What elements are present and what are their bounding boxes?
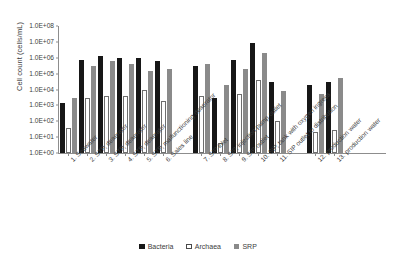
y-axis-title: Cell count (cells/mL)	[15, 2, 24, 112]
bar-bacteria	[231, 60, 236, 153]
x-tick-mark	[106, 153, 107, 156]
x-tick-mark	[87, 153, 88, 156]
legend-item-bacteria[interactable]: Bacteria	[139, 243, 173, 250]
y-tick-label: 1.0E+05	[29, 70, 54, 77]
x-tick-mark	[144, 153, 145, 156]
legend-label: Archaea	[195, 243, 221, 250]
y-tick-label: 1.0E+00	[29, 150, 54, 157]
bar-group	[212, 26, 230, 153]
chart-legend: BacteriaArchaeaSRP	[0, 243, 396, 250]
bar-bacteria	[60, 103, 65, 153]
legend-item-archaea[interactable]: Archaea	[186, 243, 221, 250]
bar-bacteria	[79, 60, 84, 153]
legend-swatch-srp	[234, 244, 240, 250]
bar-bacteria	[136, 58, 141, 153]
y-tick-label: 1.0E+07	[29, 39, 54, 46]
legend-item-srp[interactable]: SRP	[234, 243, 257, 250]
legend-swatch-archaea	[186, 244, 192, 250]
x-tick-mark	[201, 153, 202, 156]
bar-bacteria	[155, 61, 160, 153]
x-tick-mark	[334, 153, 335, 156]
legend-swatch-bacteria	[139, 244, 145, 250]
plot-area: 1.0E+081.0E+071.0E+061.0E+051.0E+041.0E+…	[58, 26, 385, 153]
bar-srp	[205, 64, 210, 153]
x-tick-mark	[220, 153, 221, 156]
bar-bacteria	[117, 58, 122, 153]
y-tick-label: 1.0E+04	[29, 86, 54, 93]
bar-group	[193, 26, 211, 153]
bar-archaea	[66, 128, 71, 153]
x-tick-mark	[315, 153, 316, 156]
legend-label: SRP	[242, 243, 256, 250]
bar-group	[60, 26, 78, 153]
x-tick-mark	[239, 153, 240, 156]
legend-label: Bacteria	[148, 243, 174, 250]
y-tick-label: 1.0E+08	[29, 23, 54, 30]
y-tick-label: 1.0E+01	[29, 134, 54, 141]
bar-srp	[72, 98, 77, 153]
y-tick-label: 1.0E+02	[29, 118, 54, 125]
bar-archaea	[313, 132, 318, 153]
bar-groups	[58, 26, 385, 153]
y-tick-label: 1.0E+06	[29, 54, 54, 61]
x-tick-mark	[125, 153, 126, 156]
x-tick-mark	[277, 153, 278, 156]
bar-chart: Cell count (cells/mL) 1.0E+081.0E+071.0E…	[0, 0, 396, 265]
x-tick-mark	[163, 153, 164, 156]
y-tick-label: 1.0E+03	[29, 102, 54, 109]
x-tick-mark	[258, 153, 259, 156]
x-tick-mark	[68, 153, 69, 156]
